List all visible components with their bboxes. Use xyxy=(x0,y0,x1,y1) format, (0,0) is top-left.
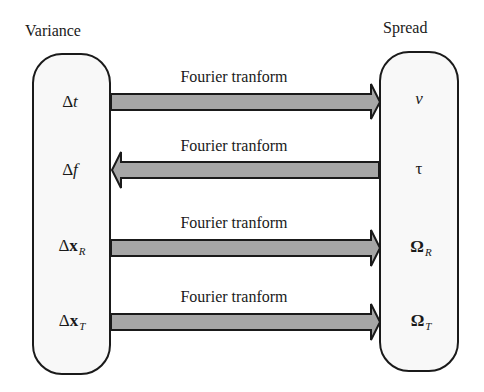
right-arrow-icon xyxy=(111,230,380,266)
variance-item-delta-t: Δt xyxy=(62,92,78,112)
arrow-label: Fourier tranform xyxy=(180,214,287,232)
right-arrow-icon xyxy=(111,84,380,119)
arrow-label: Fourier tranform xyxy=(180,68,287,86)
arrow-label: Fourier tranform xyxy=(180,288,287,306)
spread-item-omega-r: ΩR xyxy=(410,237,431,262)
left-arrow-icon xyxy=(112,152,379,188)
spread-item-nu: ν xyxy=(415,89,423,109)
spread-item-tau: τ xyxy=(416,159,423,179)
arrow-label: Fourier tranform xyxy=(180,137,287,155)
variance-item-delta-x-t: ΔxT xyxy=(59,311,86,336)
variance-item-delta-x-r: ΔxR xyxy=(58,236,85,261)
spread-item-omega-t: ΩT xyxy=(411,311,432,336)
right-arrow-icon xyxy=(111,304,380,340)
variance-item-delta-f: Δf xyxy=(62,160,78,180)
